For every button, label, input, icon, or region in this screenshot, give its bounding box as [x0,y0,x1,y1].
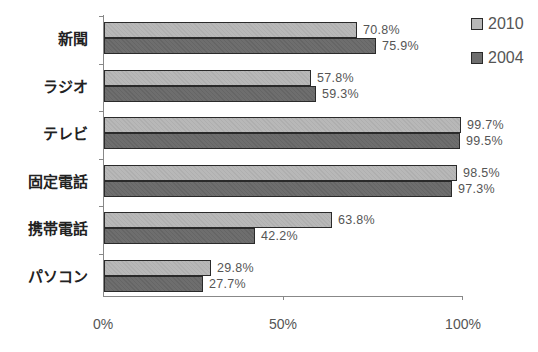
bar-2004 [104,276,203,292]
y-tick-mark [99,64,103,65]
bar-2010 [104,165,457,181]
x-tick-label: 50% [269,316,297,332]
bar-2004 [104,181,452,197]
x-tick-mark [462,296,463,300]
category-label: 携帯電話 [28,220,88,238]
bar-2010 [104,22,357,38]
legend: 2010 2004 [471,14,524,82]
legend-label: 2010 [488,15,524,33]
x-tick-mark [283,296,284,300]
bar-2010 [104,260,211,276]
category-label: ラジオ [43,78,88,96]
category-label: 新聞 [58,30,88,48]
data-label: 63.8% [338,213,375,227]
bar-2010 [104,70,311,86]
legend-swatch-icon [471,18,483,30]
data-label: 42.2% [261,229,298,243]
legend-item-2010: 2010 [471,14,524,34]
category-label: パソコン [28,268,88,286]
data-label: 29.8% [217,261,254,275]
data-label: 98.5% [463,166,500,180]
bar-2004 [104,228,255,244]
legend-label: 2004 [488,49,524,67]
bar-2004 [104,133,460,149]
y-tick-mark [99,254,103,255]
data-label: 99.5% [466,134,503,148]
data-label: 97.3% [458,182,495,196]
y-tick-mark [99,16,103,17]
y-tick-mark [99,159,103,160]
legend-item-2004: 2004 [471,48,524,68]
y-axis-line [103,15,104,296]
category-label: テレビ [43,125,88,143]
data-label: 70.8% [363,23,400,37]
bar-chart: 0% 50% 100% 2010 2004 新聞70.8%75.9%ラジオ57.… [0,0,538,352]
data-label: 99.7% [467,118,504,132]
y-tick-mark [99,111,103,112]
category-label: 固定電話 [28,173,88,191]
x-tick-label: 100% [445,316,481,332]
bar-2004 [104,86,316,102]
bar-2010 [104,212,332,228]
x-tick-label: 0% [93,316,113,332]
legend-swatch-icon [471,52,483,64]
data-label: 59.3% [322,87,359,101]
data-label: 27.7% [209,277,246,291]
bar-2010 [104,117,461,133]
bar-2004 [104,38,376,54]
y-tick-mark [99,206,103,207]
data-label: 75.9% [382,39,419,53]
data-label: 57.8% [317,71,354,85]
